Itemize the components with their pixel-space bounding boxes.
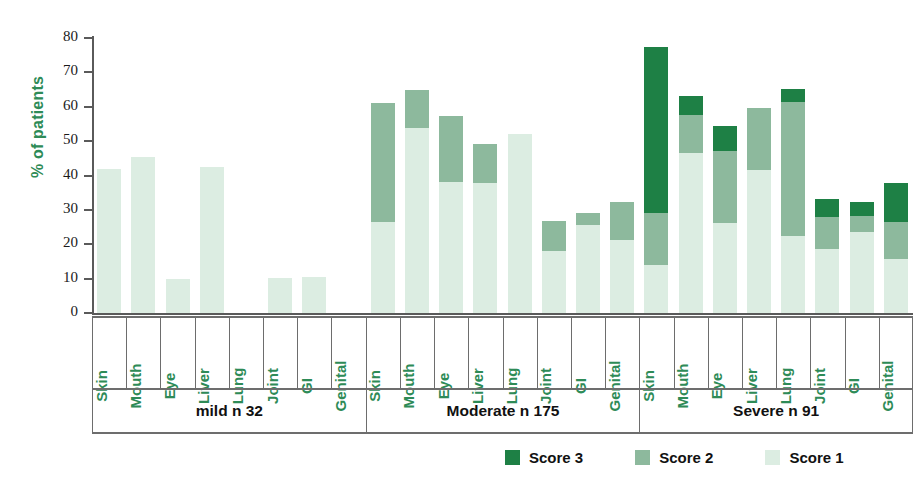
bar-segment-score1	[405, 128, 429, 313]
group-label: Moderate n 175	[447, 402, 560, 420]
x-axis-category-cell-joint: Joint	[810, 316, 844, 388]
bar-segment-score2	[815, 217, 839, 250]
bar-segment-score3	[713, 126, 737, 152]
bar-segment-score1	[610, 240, 634, 313]
x-axis-category-cell-lung: Lung	[503, 316, 537, 388]
bar	[371, 103, 395, 313]
bar-segment-score1	[302, 277, 326, 313]
x-axis-category-cell-gi: GI	[571, 316, 605, 388]
group-label: Severe n 91	[733, 402, 819, 420]
bar-segment-score1	[679, 153, 703, 313]
group-label: mild n 32	[196, 402, 263, 420]
legend-item: Score 2	[635, 449, 713, 466]
bar-segment-score2	[439, 116, 463, 182]
bar-segment-score1	[200, 167, 224, 313]
bar-segment-score3	[679, 96, 703, 116]
x-axis-category-cell-genital: Genital	[331, 316, 365, 388]
x-axis-category-cell-liver: Liver	[195, 316, 229, 388]
bar-segment-score1	[576, 225, 600, 313]
bar-segment-score2	[679, 115, 703, 153]
bar-segment-score2	[850, 216, 874, 232]
bar-segment-score1	[884, 259, 908, 313]
bar-segment-score1	[713, 223, 737, 313]
bar-segment-score2	[884, 222, 908, 259]
chart-legend: Score 3Score 2Score 1	[505, 449, 896, 466]
bar-segment-score3	[850, 202, 874, 216]
x-axis-category-cell-eye: Eye	[160, 316, 194, 388]
bar	[850, 202, 874, 313]
bar-segment-score1	[781, 236, 805, 313]
x-axis-category-cell-skin: Skin	[639, 316, 673, 388]
bar-segment-score2	[610, 202, 634, 239]
bar	[166, 279, 190, 313]
bar-segment-score1	[473, 183, 497, 313]
legend-item: Score 1	[765, 449, 843, 466]
bar	[473, 144, 497, 313]
bar	[439, 116, 463, 313]
bar-segment-score1	[439, 182, 463, 313]
bar-segment-score1	[815, 249, 839, 313]
x-axis-category-cell-gi: GI	[297, 316, 331, 388]
x-axis-category-cell-joint: Joint	[263, 316, 297, 388]
bar-segment-score1	[850, 232, 874, 313]
bar	[97, 169, 121, 313]
bar	[302, 277, 326, 313]
x-axis-category-cell-genital: Genital	[605, 316, 639, 388]
x-axis-category-cell-gi: GI	[845, 316, 879, 388]
legend-label: Score 3	[529, 449, 583, 466]
group-label-cell: mild n 32	[92, 388, 366, 433]
bar	[576, 213, 600, 313]
bar	[644, 47, 668, 313]
bar-segment-score1	[97, 169, 121, 313]
bar-segment-score3	[884, 183, 908, 222]
bar-segment-score2	[713, 151, 737, 222]
x-axis-category-cell-mouth: Mouth	[400, 316, 434, 388]
bar	[884, 183, 908, 313]
bar	[405, 90, 429, 313]
bar-segment-score3	[815, 199, 839, 217]
group-row-bottom-border	[92, 432, 913, 434]
bar-segment-score2	[371, 103, 395, 222]
bar	[610, 202, 634, 313]
x-axis-category-cell-eye: Eye	[434, 316, 468, 388]
legend-swatch	[635, 450, 650, 465]
bar	[747, 108, 771, 313]
bar	[815, 199, 839, 313]
legend-item: Score 3	[505, 449, 583, 466]
bar-segment-score1	[644, 265, 668, 313]
x-axis-category-cell-liver: Liver	[742, 316, 776, 388]
x-axis-category-cell-mouth: Mouth	[674, 316, 708, 388]
group-label-cell: Moderate n 175	[366, 388, 640, 433]
bar-segment-score2	[576, 213, 600, 225]
group-label-cell: Severe n 91	[639, 388, 913, 433]
bar-segment-score1	[508, 134, 532, 313]
legend-label: Score 2	[659, 449, 713, 466]
bar-segment-score1	[542, 251, 566, 313]
x-axis-category-cell-liver: Liver	[468, 316, 502, 388]
legend-swatch	[765, 450, 780, 465]
x-axis-category-cell-genital: Genital	[879, 316, 913, 388]
bar	[508, 134, 532, 313]
x-axis-category-cell-lung: Lung	[776, 316, 810, 388]
x-axis-category-cell-mouth: Mouth	[126, 316, 160, 388]
bar-segment-score1	[166, 279, 190, 313]
x-axis-category-cell-lung: Lung	[229, 316, 263, 388]
bar-segment-score1	[131, 157, 155, 313]
bar	[713, 126, 737, 313]
bar-segment-score2	[644, 213, 668, 265]
bar-segment-score2	[781, 102, 805, 237]
chart-container: % of patients 01020304050607080 SkinMout…	[0, 0, 923, 491]
legend-label: Score 1	[789, 449, 843, 466]
x-axis-category-cell-joint: Joint	[537, 316, 571, 388]
bar-segment-score3	[644, 47, 668, 214]
x-axis-category-cell-skin: Skin	[366, 316, 400, 388]
bar-segment-score1	[371, 222, 395, 313]
bar-segment-score1	[268, 278, 292, 313]
bar	[679, 96, 703, 313]
x-axis-category-cell-skin: Skin	[92, 316, 126, 388]
bar	[131, 157, 155, 313]
bar	[781, 89, 805, 313]
bar-segment-score3	[781, 89, 805, 102]
bar	[200, 167, 224, 313]
bar-segment-score2	[405, 90, 429, 128]
